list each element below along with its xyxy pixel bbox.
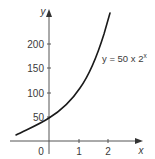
equation-text: y = 50 x 2 — [102, 53, 143, 64]
exponential-graph: 0 1 2 50 100 150 200 x y y = 50 x 2x — [0, 0, 155, 159]
x-tick-label-1: 1 — [76, 146, 82, 157]
x-tick-label-2: 2 — [105, 146, 111, 157]
y-tick-label-200: 200 — [27, 39, 44, 50]
y-axis-arrow-icon — [46, 9, 52, 17]
y-axis-label: y — [40, 6, 47, 17]
y-tick-label-150: 150 — [27, 63, 44, 74]
x-axis-arrow-icon — [135, 138, 143, 144]
x-axis-label: x — [138, 145, 145, 156]
exponential-curve — [16, 13, 110, 135]
equation-label: y = 50 x 2x — [102, 52, 147, 64]
x-tick-label-0: 0 — [38, 146, 44, 157]
equation-exponent: x — [143, 52, 147, 59]
y-tick-label-100: 100 — [27, 88, 44, 99]
